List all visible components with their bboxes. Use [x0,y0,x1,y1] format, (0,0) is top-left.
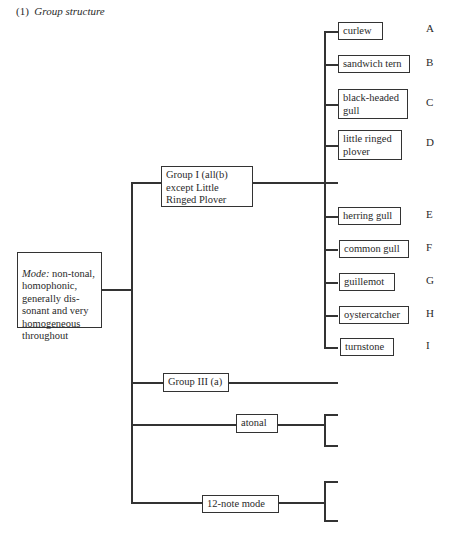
leaf-box: little ringed plover [338,130,402,160]
leaf-tick [324,315,338,317]
leaf-box: turnstone [340,338,394,356]
group1-connector-left [131,182,161,184]
leaf-box: herring gull [338,207,401,225]
trunk-line [131,182,133,503]
leaf-tick [324,347,338,349]
group-box-group3a: Group III (a) [163,373,229,392]
leaf-box: oystercatcher [339,306,409,324]
leaf-box: black-headed gull [338,89,408,119]
atonal-connector [131,424,325,426]
leaf-box: common gull [339,240,409,258]
leaf-letter: E [426,208,433,220]
leaf-letter: I [426,339,430,351]
leaf-letter: A [426,22,434,34]
atonal-bracket [324,414,326,446]
root-mode-box: Mode: non-tonal, homophonic, generally d… [17,252,102,328]
leaf-tick [324,445,338,447]
leaf-box: guillemot [339,273,395,291]
leaf-tick [324,145,338,147]
leaf-box: sandwich tern [338,55,410,73]
group-box-group1: Group I (all(b) except Little Ringed Plo… [161,166,253,207]
caption: (1) Group structure [16,5,105,17]
leaf-tick [324,31,338,33]
root-label-italic: Mode: [22,268,49,279]
twelve-note-bracket [324,481,326,521]
leaf-letter: D [426,136,434,148]
leaf-letter: F [426,241,432,253]
leaf-letter: B [426,56,433,68]
caption-title: Group structure [34,5,104,17]
root-connector [101,289,132,291]
leaf-letter: C [426,96,433,108]
leaf-letter: H [426,307,434,319]
caption-number: (1) [16,5,29,17]
leaf-tick [324,414,338,416]
leaf-letter: G [426,274,434,286]
group-box-12-note: 12-note mode [202,495,279,513]
leaf-box: curlew [338,22,383,40]
leaf-tick [324,64,338,66]
leaf-tick [324,249,338,251]
group1-spine [324,31,326,348]
group-box-atonal: atonal [236,414,278,433]
leaf-tick [324,104,338,106]
leaf-tick [324,520,338,522]
leaf-tick [324,216,338,218]
leaf-tick [324,481,338,483]
leaf-tick [324,282,338,284]
